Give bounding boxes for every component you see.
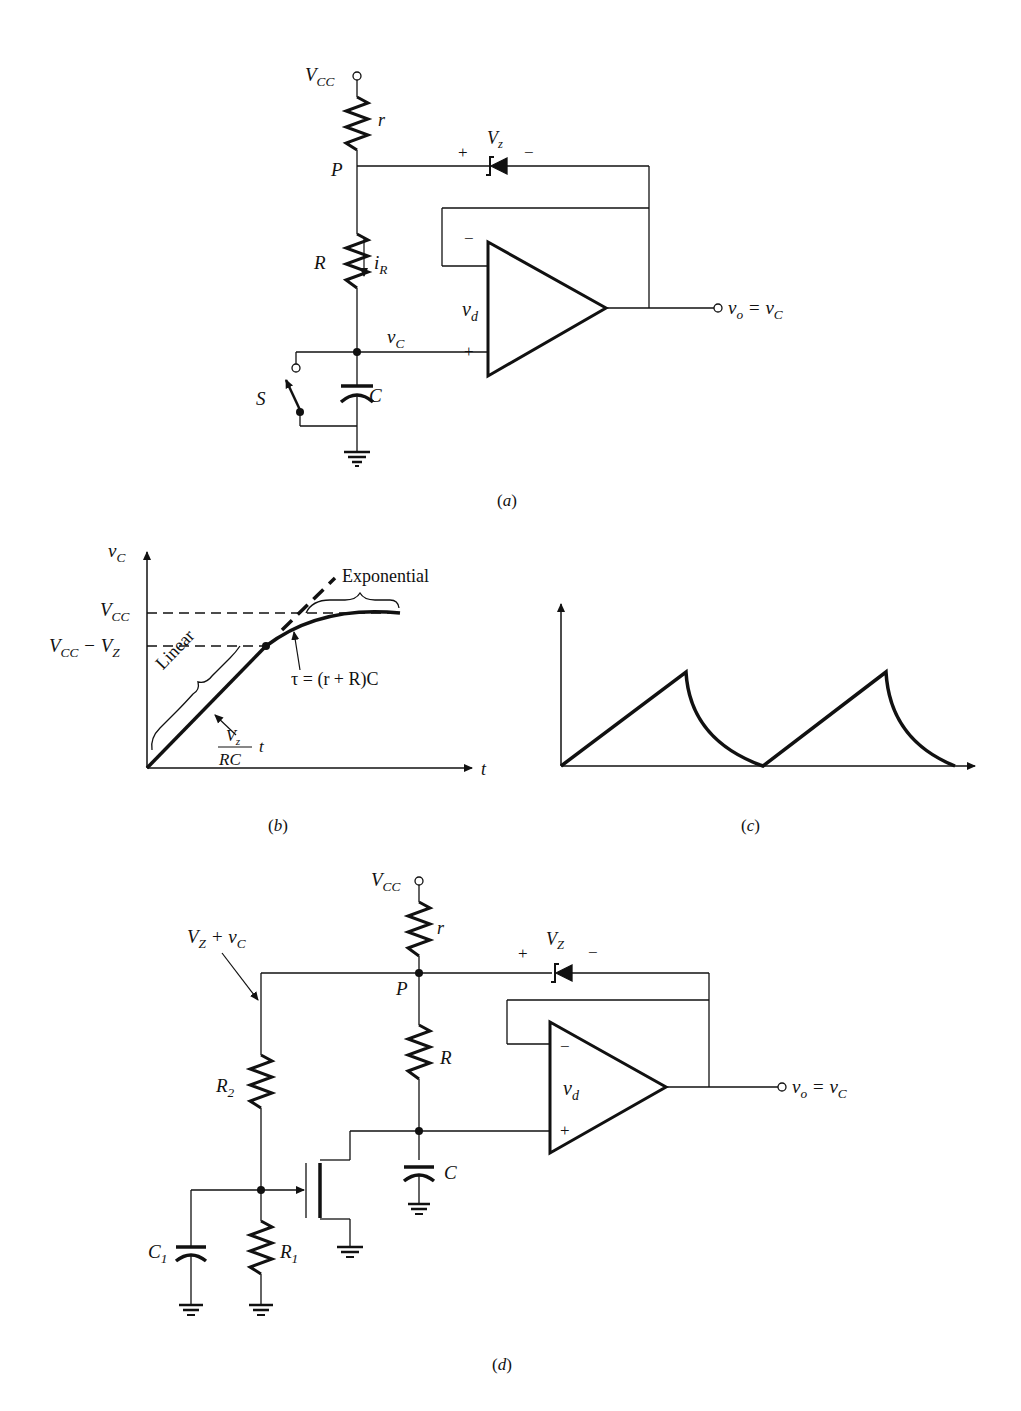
C-label-d: C bbox=[444, 1163, 457, 1182]
tau-label-b: τ = (r + R)C bbox=[291, 670, 379, 688]
vo-label-a: vo = vC bbox=[728, 298, 783, 317]
vd-label-d: vd bbox=[563, 1078, 579, 1098]
opamp-minus-a: − bbox=[464, 230, 474, 247]
zener-plus-a: + bbox=[458, 144, 468, 161]
caption-d: (d) bbox=[492, 1356, 512, 1373]
zener-minus-d: − bbox=[588, 944, 598, 961]
caption-a: (a) bbox=[497, 492, 517, 509]
slope-t-label-b: t bbox=[259, 738, 264, 755]
opamp-plus-a: + bbox=[464, 343, 474, 360]
opamp-minus-d: − bbox=[560, 1038, 570, 1055]
vcc-label-d: VCC bbox=[371, 870, 400, 889]
R-label-a: R bbox=[314, 253, 326, 272]
iR-label-a: iR bbox=[374, 253, 387, 272]
switch-S-label: S bbox=[256, 389, 266, 408]
zener-plus-d: + bbox=[518, 945, 528, 962]
slope-numerator-b: Vz bbox=[226, 728, 240, 744]
slope-denominator-b: RC bbox=[219, 751, 241, 768]
textbook-page: VCC r P + Vz − R iR − + vd vC S C vo = v… bbox=[0, 0, 1021, 1411]
caption-b: (b) bbox=[268, 817, 288, 834]
zener-vz-label-d: VZ bbox=[546, 930, 564, 948]
vcc-minus-vz-label-b: VCC − VZ bbox=[49, 636, 120, 655]
vz-plus-vc-label-d: VZ + vC bbox=[187, 927, 246, 946]
R-label-d: R bbox=[440, 1048, 452, 1067]
r-label-d: r bbox=[437, 919, 444, 937]
r-label-a: r bbox=[378, 111, 385, 129]
schematic-drawing bbox=[0, 0, 1021, 1411]
zener-minus-a: − bbox=[524, 144, 534, 161]
zener-vz-label-a: Vz bbox=[487, 129, 503, 147]
y-axis-label-b: vC bbox=[108, 541, 125, 560]
node-p-label-d: P bbox=[396, 979, 408, 998]
C-label-a: C bbox=[369, 386, 382, 405]
node-p-label-a: P bbox=[331, 160, 343, 179]
caption-c: (c) bbox=[741, 817, 760, 834]
vd-label-a: vd bbox=[462, 299, 478, 319]
opamp-plus-d: + bbox=[560, 1122, 570, 1139]
vC-label-a: vC bbox=[387, 327, 404, 346]
figure-a-circuit bbox=[286, 72, 722, 466]
figure-d-circuit bbox=[176, 877, 786, 1315]
exponential-label-b: Exponential bbox=[342, 567, 429, 585]
R2-label-d: R2 bbox=[216, 1076, 234, 1095]
R1-label-d: R1 bbox=[280, 1242, 298, 1261]
vcc-label-a: VCC bbox=[305, 65, 334, 84]
x-axis-label-b: t bbox=[481, 760, 486, 778]
C1-label-d: C1 bbox=[148, 1242, 167, 1261]
vo-label-d: vo = vC bbox=[792, 1077, 847, 1096]
figure-c-waveform bbox=[561, 604, 975, 766]
vcc-level-label-b: VCC bbox=[100, 600, 129, 619]
